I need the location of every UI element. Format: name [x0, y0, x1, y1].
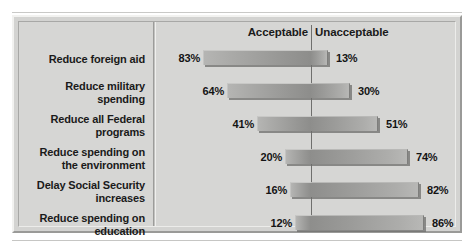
value-acceptable: 83%: [179, 52, 200, 64]
bar-unacceptable: [311, 50, 328, 65]
value-unacceptable: 13%: [336, 52, 357, 64]
value-unacceptable: 86%: [432, 217, 453, 229]
bar-unacceptable: [311, 215, 424, 230]
category-label-rows: Reduce foreign aid Reduce military spend…: [19, 44, 153, 226]
category-label: Delay Social Security increases: [37, 179, 145, 204]
category-label-panel: Reduce foreign aid Reduce military spend…: [19, 22, 153, 226]
value-unacceptable: 30%: [358, 85, 379, 97]
bar-unacceptable: [311, 182, 419, 197]
value-acceptable: 12%: [271, 217, 292, 229]
bar-group: 83% 13%: [156, 50, 455, 67]
category-label: Reduce spending on education: [40, 212, 145, 237]
plot-panel: Acceptable Unacceptable 83% 13%: [156, 22, 455, 226]
category-label: Reduce all Federal programs: [50, 113, 145, 138]
bar-row: 20% 74%: [156, 143, 455, 176]
bar-group: 41% 51%: [156, 116, 455, 133]
category-row: Reduce military spending: [19, 77, 153, 110]
bar-rows: 83% 13% 64% 30%: [156, 44, 455, 226]
value-acceptable: 41%: [233, 118, 254, 130]
legend-label-unacceptable: Unacceptable: [315, 26, 389, 38]
bottom-strip: [12, 240, 462, 244]
category-row: Reduce all Federal programs: [19, 110, 153, 143]
category-label: Reduce spending on the environment: [40, 146, 145, 171]
chart-outer-frame: Reduce foreign aid Reduce military spend…: [12, 15, 462, 233]
category-label: Reduce military spending: [65, 80, 145, 105]
category-row: Reduce spending on the environment: [19, 143, 153, 176]
bar-acceptable: [285, 149, 311, 164]
bar-acceptable: [290, 182, 311, 197]
value-acceptable: 64%: [203, 85, 224, 97]
bar-unacceptable: [311, 149, 408, 164]
bar-group: 12% 86%: [156, 215, 455, 232]
value-unacceptable: 82%: [427, 184, 448, 196]
bar-row: 41% 51%: [156, 110, 455, 143]
bar-row: 12% 86%: [156, 209, 455, 242]
value-acceptable: 16%: [266, 184, 287, 196]
bar-acceptable: [203, 50, 311, 65]
chart-root: Reduce foreign aid Reduce military spend…: [0, 0, 474, 248]
bar-row: 83% 13%: [156, 44, 455, 77]
bar-acceptable: [227, 83, 311, 98]
bar-group: 20% 74%: [156, 149, 455, 166]
bar-group: 16% 82%: [156, 182, 455, 199]
value-unacceptable: 74%: [416, 151, 437, 163]
legend: Acceptable Unacceptable: [156, 26, 455, 44]
category-row: Reduce foreign aid: [19, 44, 153, 77]
category-label: Reduce foreign aid: [49, 53, 145, 66]
category-row: Delay Social Security increases: [19, 176, 153, 209]
legend-label-acceptable: Acceptable: [248, 26, 308, 38]
chart-inner-frame: Reduce foreign aid Reduce military spend…: [18, 21, 456, 227]
bar-unacceptable: [311, 116, 378, 131]
bar-row: 16% 82%: [156, 176, 455, 209]
bar-acceptable: [257, 116, 311, 131]
bar-group: 64% 30%: [156, 83, 455, 100]
bar-acceptable: [295, 215, 311, 230]
category-row: Reduce spending on education: [19, 209, 153, 242]
bar-unacceptable: [311, 83, 350, 98]
value-acceptable: 20%: [261, 151, 282, 163]
top-hairline: [12, 12, 462, 13]
bar-row: 64% 30%: [156, 77, 455, 110]
value-unacceptable: 51%: [386, 118, 407, 130]
